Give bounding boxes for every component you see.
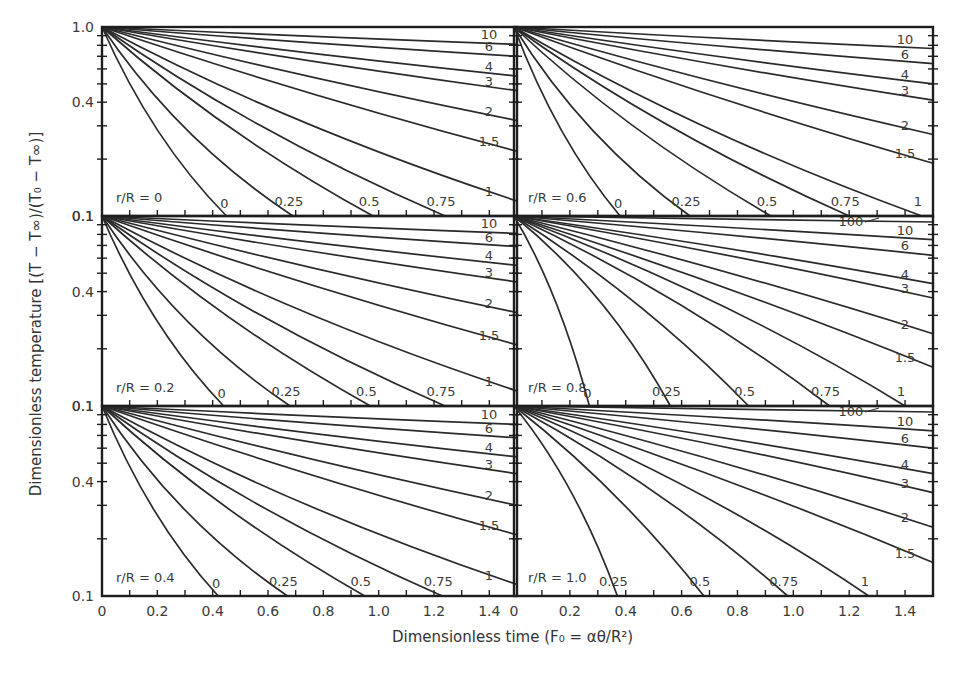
x-tick-label: 1.4 [894,603,916,619]
curve-label: 0.5 [350,574,371,589]
x-tick-label: 0 [98,603,107,619]
curve-bi-1.5 [102,406,517,535]
x-tick-label: 0.6 [670,603,692,619]
panel-label: r/R = 0.2 [116,380,175,395]
curve-label: 2 [901,317,909,332]
curve-bi-0.25 [514,216,670,406]
curve-label: 3 [901,476,909,491]
curve-label: 0 [212,576,220,591]
curve-label: 2 [485,296,493,311]
curve-bi-2 [514,27,933,135]
curve-label: 10 [481,407,498,422]
curve-label: 0.5 [690,574,711,589]
curve-label: 4 [485,59,493,74]
curve-bi-2 [514,406,933,527]
curve-bi-0.25 [102,27,293,216]
curve-bi-0.25 [102,216,290,406]
curve-label: 3 [485,457,493,472]
curve-label: 4 [485,248,493,263]
curve-label: 1.5 [479,328,500,343]
curve-bi-0.5 [514,27,771,216]
y-tick-label: 0.4 [72,474,94,490]
curve-label: 1 [485,184,493,199]
y-tick-label: 0.1 [72,588,94,604]
curve-label: 0.25 [652,384,681,399]
x-tick-label: 0.6 [257,603,279,619]
panel-label: r/R = 0.6 [528,190,587,205]
curve-label: 3 [485,74,493,89]
panel-frame [102,27,517,216]
curve-label: 2 [485,488,493,503]
curve-label: 3 [485,265,493,280]
curve-label: 4 [485,440,493,455]
panel-rr0.2: 00.250.50.7511.5234610r/R = 0.20.40.10.1 [72,208,522,414]
curve-label: 1 [914,194,922,209]
curve-bi-2 [102,406,517,505]
curve-bi-0.75 [102,406,442,596]
x-tick-label: 0.2 [146,603,168,619]
panel-label: r/R = 1.0 [528,570,587,585]
panel-frame [514,216,933,406]
curve-label: 1.5 [895,350,916,365]
curve-label: 0.25 [672,194,701,209]
curve-label: 0.25 [272,384,301,399]
panel-rr0.6: 00.250.50.7511.5234610r/R = 0.6 [509,27,938,216]
curves [102,216,517,406]
curve-label: 4 [901,457,909,472]
curve-label: 10 [897,223,914,238]
curve-label: 2 [901,118,909,133]
panel-frame [102,406,517,596]
x-axis-title: Dimensionless time (F₀ = αθ/R²) [392,628,633,646]
y-axis-title: Dimensionless temperature [(T − T∞)/(T₀ … [27,132,45,497]
curve-label: 10 [481,27,498,42]
curve-label: 0.75 [424,574,453,589]
curve-bi-1.5 [514,27,933,163]
x-tick-label: 1.2 [423,603,445,619]
curves [514,406,933,596]
x-tick-label: 1.2 [838,603,860,619]
curve-label: 2 [485,104,493,119]
curve-label: 0.75 [427,194,456,209]
chart-canvas: 00.250.50.7511.5234610r/R = 01.00.40.100… [0,0,959,674]
curve-label: 10 [481,216,498,231]
curve-label: 0 [614,196,622,211]
curves [514,27,933,216]
panel-rr0.8: 00.250.50.7511.5234610100r/R = 0.8 [509,214,938,406]
x-tick-label: 1.0 [368,603,390,619]
curve-bi-1.5 [514,406,933,563]
curve-label: 3 [901,281,909,296]
curve-label: 10 [897,414,914,429]
y-tick-label: 0.1 [72,398,94,414]
curve-label: 6 [901,431,909,446]
curve-bi-0.75 [514,406,788,596]
curve-label: 0.5 [734,384,755,399]
curve-bi-0 [514,27,620,216]
curve-label: 4 [901,67,909,82]
curve-label: 0.5 [757,194,778,209]
curves [102,406,517,596]
curve-label: 6 [485,421,493,436]
curve-bi-0 [102,216,224,406]
curve-bi-0 [102,406,218,596]
curve-bi-1.5 [514,216,933,367]
curve-label: 1 [485,374,493,389]
panel-rr0.4: 00.250.50.7511.5234610r/R = 0.40.40.10.1… [72,398,522,619]
y-tick-label: 1.0 [72,19,94,35]
panel-rr1.0: 0.250.50.7511.5234610100r/R = 1.000.20.4… [509,404,938,619]
y-tick-label: 0.4 [72,94,94,110]
curve-label: 0.25 [269,574,298,589]
curve-label: 0.75 [769,574,798,589]
curve-bi-0.5 [514,406,704,596]
curve-bi-0.5 [514,216,749,406]
curve-bi-1.5 [102,27,517,151]
curve-label: 0.5 [359,194,380,209]
curve-bi-4 [514,216,933,284]
curve-label: 6 [901,238,909,253]
x-tick-label: 1.0 [782,603,804,619]
curve-bi-1.5 [102,216,517,345]
curve-label: 0.75 [811,384,840,399]
curve-label: 1.5 [895,146,916,161]
panel-label: r/R = 0.4 [116,570,175,585]
curve-label: 1 [897,384,905,399]
curve-label: 1 [861,574,869,589]
